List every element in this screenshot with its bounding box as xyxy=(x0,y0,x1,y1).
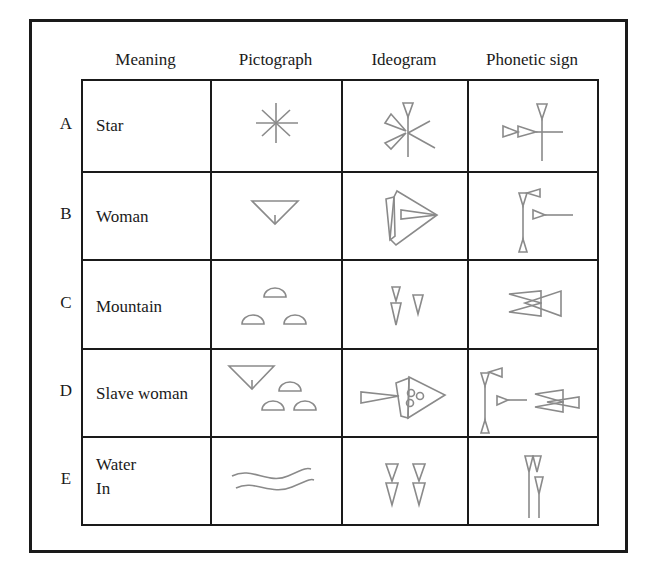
phonetic-cell-slave-woman xyxy=(467,348,599,438)
meaning-text: Woman xyxy=(96,204,148,230)
row-label-b: B xyxy=(58,204,74,224)
ideogram-cell-star xyxy=(341,79,469,173)
phonetic-cell-water xyxy=(467,436,599,526)
meaning-cell-woman: Woman xyxy=(81,171,212,261)
pictograph-cell-mountain xyxy=(210,259,343,350)
slave-woman-phonetic-icon xyxy=(469,350,597,436)
woman-pictograph-icon xyxy=(212,173,341,259)
meaning-cell-water: Water In xyxy=(81,436,212,526)
ideogram-cell-slave-woman xyxy=(341,348,469,438)
row-label-e: E xyxy=(58,469,74,489)
meaning-text: Mountain xyxy=(96,294,162,320)
ideogram-cell-woman xyxy=(341,171,469,261)
water-pictograph-icon xyxy=(212,438,341,524)
header-ideogram: Ideogram xyxy=(341,50,467,70)
mountain-pictograph-icon xyxy=(212,261,341,348)
ideogram-cell-mountain xyxy=(341,259,469,350)
phonetic-cell-star xyxy=(467,79,599,173)
meaning-text-line1: Water xyxy=(96,452,136,478)
pictograph-cell-slave-woman xyxy=(210,348,343,438)
row-label-c: C xyxy=(58,293,74,313)
row-label-a: A xyxy=(58,114,74,134)
meaning-text: Slave woman xyxy=(96,381,188,407)
water-ideogram-icon xyxy=(343,438,467,524)
ideogram-cell-water xyxy=(341,436,469,526)
star-phonetic-icon xyxy=(469,81,597,171)
row-label-d: D xyxy=(58,381,74,401)
header-meaning: Meaning xyxy=(81,50,210,70)
phonetic-cell-woman xyxy=(467,171,599,261)
star-pictograph-icon xyxy=(212,81,341,171)
meaning-cell-slave-woman: Slave woman xyxy=(81,348,212,438)
pictograph-cell-woman xyxy=(210,171,343,261)
woman-phonetic-icon xyxy=(469,173,597,259)
meaning-text-line2: In xyxy=(96,476,110,502)
phonetic-cell-mountain xyxy=(467,259,599,350)
header-phonetic-sign: Phonetic sign xyxy=(467,50,597,70)
header-pictograph: Pictograph xyxy=(210,50,341,70)
slave-woman-ideogram-icon xyxy=(343,350,467,436)
slave-woman-pictograph-icon xyxy=(212,350,341,436)
mountain-ideogram-icon xyxy=(343,261,467,348)
meaning-text: Star xyxy=(96,113,123,139)
meaning-cell-star: Star xyxy=(81,79,212,173)
star-ideogram-icon xyxy=(343,81,467,171)
pictograph-cell-water xyxy=(210,436,343,526)
meaning-cell-mountain: Mountain xyxy=(81,259,212,350)
mountain-phonetic-icon xyxy=(469,261,597,348)
water-phonetic-icon xyxy=(469,438,597,524)
woman-ideogram-icon xyxy=(343,173,467,259)
pictograph-cell-star xyxy=(210,79,343,173)
